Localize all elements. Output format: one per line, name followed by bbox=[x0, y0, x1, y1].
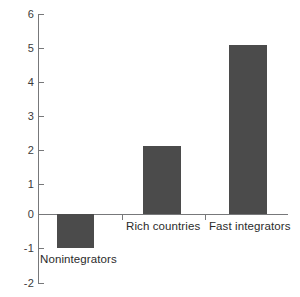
y-tick-label-2: 2 bbox=[4, 145, 34, 156]
y-tick-label-neg2: -2 bbox=[4, 278, 34, 289]
category-label-fast-integrators: Fast integrators bbox=[209, 220, 291, 233]
category-label-nonintegrators: Nonintegrators bbox=[40, 253, 117, 266]
y-tick-label-1: 1 bbox=[4, 179, 34, 190]
y-tick-3 bbox=[39, 116, 44, 117]
y-tick-1 bbox=[39, 184, 44, 185]
y-tick-neg1 bbox=[39, 248, 44, 249]
bar-fast-integrators bbox=[229, 45, 267, 214]
y-tick-label-6: 6 bbox=[4, 9, 34, 20]
y-tick-5 bbox=[39, 48, 44, 49]
category-label-rich-countries: Rich countries bbox=[126, 220, 200, 233]
bar-chart: 6 5 4 3 2 1 0 -1 -2 Nonintegrators Rich … bbox=[0, 0, 300, 297]
y-tick-6 bbox=[39, 14, 44, 15]
x-tick-2 bbox=[205, 215, 206, 220]
bar-rich-countries bbox=[143, 146, 181, 214]
bar-nonintegrators bbox=[57, 214, 94, 248]
y-tick-2 bbox=[39, 150, 44, 151]
y-tick-label-4: 4 bbox=[4, 77, 34, 88]
plot-area: 6 5 4 3 2 1 0 -1 -2 Nonintegrators Rich … bbox=[0, 0, 300, 297]
y-tick-4 bbox=[39, 82, 44, 83]
y-tick-label-5: 5 bbox=[4, 43, 34, 54]
y-tick-label-3: 3 bbox=[4, 111, 34, 122]
y-axis-spine bbox=[38, 14, 39, 284]
y-tick-label-neg1: -1 bbox=[4, 243, 34, 254]
x-tick-1 bbox=[122, 215, 123, 220]
y-tick-neg2 bbox=[39, 283, 44, 284]
y-tick-label-0: 0 bbox=[4, 209, 34, 220]
